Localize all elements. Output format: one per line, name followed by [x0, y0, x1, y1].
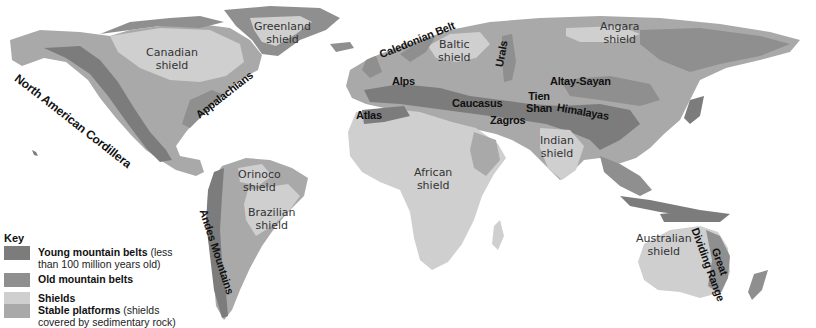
- key-text: Old mountain belts: [38, 273, 133, 285]
- tien-shan-line1: Tien: [528, 90, 550, 102]
- label-zagros: Zagros: [490, 115, 525, 126]
- label-caucasus: Caucasus: [452, 98, 502, 109]
- tien-shan-line2: Shan: [526, 102, 552, 114]
- key-item-stable-platforms: Stable platforms (shields covered by sed…: [4, 304, 176, 328]
- key-detail: (less: [147, 246, 172, 258]
- hawaii: [32, 150, 38, 156]
- platform-swatch: [4, 304, 30, 318]
- key-detail: (shields: [120, 304, 159, 316]
- angara-line1: Angara: [600, 20, 639, 33]
- label-baltic-shield: Baltic shield: [438, 38, 471, 64]
- african-line2: shield: [417, 179, 450, 192]
- greenland-line2: shield: [266, 33, 299, 46]
- key-item-old-mountain-belts: Old mountain belts: [4, 273, 133, 287]
- indonesia: [620, 196, 700, 216]
- key-label: Old mountain belts: [38, 273, 133, 285]
- australian-line2: shield: [648, 245, 681, 258]
- baltic-line2: shield: [438, 51, 471, 64]
- key-item-young-mountain-belts: Young mountain belts (less than 100 mill…: [4, 246, 173, 270]
- angara-line2: shield: [603, 33, 636, 46]
- label-african-shield: African shield: [414, 166, 452, 192]
- label-canadian-shield: Canadian shield: [146, 46, 198, 72]
- key-label: Stable platforms: [38, 304, 120, 316]
- label-altay-sayan: Altay-Sayan: [550, 76, 611, 87]
- australian-line1: Australian: [636, 232, 692, 245]
- label-tien-shan: Tien Shan: [526, 90, 552, 114]
- young-mountain-swatch: [4, 246, 30, 260]
- key-detail-2: than 100 million years old): [38, 258, 161, 270]
- key-title: Key: [4, 232, 24, 244]
- key-label: Young mountain belts: [38, 246, 147, 258]
- key-text: Stable platforms (shields covered by sed…: [38, 304, 176, 328]
- brazilian-line1: Brazilian: [248, 206, 295, 219]
- baltic-line1: Baltic: [439, 38, 470, 51]
- label-orinoco-shield: Orinoco shield: [238, 168, 281, 194]
- african-line1: African: [414, 166, 452, 179]
- label-greenland-shield: Greenland shield: [254, 20, 311, 46]
- brazilian-line2: shield: [255, 219, 288, 232]
- key-text: Young mountain belts (less than 100 mill…: [38, 246, 173, 270]
- key-label: Shields: [38, 292, 75, 304]
- key-text: Shields: [38, 292, 75, 304]
- key-detail-2: covered by sedimentary rock): [38, 316, 176, 328]
- indian-line1: Indian: [540, 134, 574, 147]
- label-angara-shield: Angara shield: [600, 20, 639, 46]
- orinoco-line2: shield: [243, 181, 276, 194]
- orinoco-line1: Orinoco: [238, 168, 281, 181]
- canadian-line1: Canadian: [146, 46, 198, 59]
- label-australian-shield: Australian shield: [636, 232, 692, 258]
- label-indian-shield: Indian shield: [540, 134, 574, 160]
- label-atlas: Atlas: [356, 110, 382, 121]
- iceland: [330, 42, 354, 52]
- greenland-line1: Greenland: [254, 20, 311, 33]
- label-brazilian-shield: Brazilian shield: [248, 206, 295, 232]
- label-alps: Alps: [392, 76, 415, 87]
- indian-line2: shield: [541, 147, 574, 160]
- canadian-line2: shield: [156, 59, 189, 72]
- old-mountain-swatch: [4, 273, 30, 287]
